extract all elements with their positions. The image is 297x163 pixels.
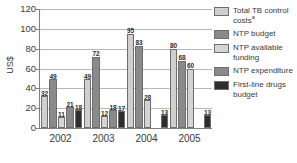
bar-value-label: 13 xyxy=(204,109,211,116)
bar-group: 3249112118 xyxy=(40,9,83,128)
bar-value-label: 60 xyxy=(187,62,194,69)
legend-swatch xyxy=(214,44,229,53)
bar-value-label: 83 xyxy=(135,39,142,46)
legend-item: Total TB control costsa xyxy=(214,6,296,25)
bar: 13 xyxy=(204,115,212,128)
plot-area: 324911211849721218179583281380686013 xyxy=(39,9,212,129)
bar: 60 xyxy=(187,69,195,129)
bar-value-label: 21 xyxy=(66,101,73,108)
bar-value-label: 13 xyxy=(161,109,168,116)
bar-group: 4972121817 xyxy=(83,9,126,128)
y-axis-tick-labels: 020406080100120 xyxy=(8,0,36,135)
y-axis-tick-label: 20 xyxy=(8,103,36,113)
bar: 18 xyxy=(75,110,83,128)
x-axis-tick-label: 2002 xyxy=(49,133,71,145)
bar-value-label: 18 xyxy=(109,104,116,111)
bars-layer: 324911211849721218179583281380686013 xyxy=(40,9,212,128)
bar: 83 xyxy=(135,46,143,128)
bar-value-label: 80 xyxy=(170,42,177,49)
legend-item: NTP budget xyxy=(214,29,296,39)
chart-legend: Total TB control costsaNTP budgetNTP ava… xyxy=(214,6,296,103)
legend-item: NTP available funding xyxy=(214,43,296,62)
legend-label: NTP expenditure xyxy=(233,66,293,76)
bar-value-label: 18 xyxy=(75,104,82,111)
bar-value-label: 95 xyxy=(127,27,134,34)
y-axis-tick xyxy=(36,128,40,129)
bar: 21 xyxy=(66,107,74,128)
x-axis-tick-labels: 2002200320042005 xyxy=(39,133,211,151)
bar: 11 xyxy=(58,117,66,128)
bar: 80 xyxy=(170,49,178,128)
bar: 49 xyxy=(84,79,92,128)
bar-group: 80686013 xyxy=(169,9,212,128)
bar: 28 xyxy=(144,100,152,128)
bar-value-label: 32 xyxy=(41,90,48,97)
legend-label: Total TB control costsa xyxy=(233,6,296,25)
legend-swatch xyxy=(214,30,229,39)
bar-value-label: 11 xyxy=(58,111,65,118)
legend-item: First-line drugs budget xyxy=(214,80,296,99)
bar-value-label: 28 xyxy=(144,94,151,101)
legend-label: NTP available funding xyxy=(233,43,296,62)
legend-swatch xyxy=(214,67,229,76)
bar: 12 xyxy=(101,116,109,128)
y-axis-tick-label: 80 xyxy=(8,44,36,54)
legend-label: First-line drugs budget xyxy=(233,80,296,99)
legend-label-superscript: a xyxy=(252,14,255,20)
bar: 72 xyxy=(92,57,100,128)
legend-label: NTP budget xyxy=(233,29,276,39)
bar-chart: US$ 020406080100120 32491121184972121817… xyxy=(0,0,297,163)
bar: 17 xyxy=(118,111,126,128)
bar-value-label: 49 xyxy=(84,73,91,80)
bar-value-label: 12 xyxy=(101,110,108,117)
legend-swatch xyxy=(214,81,229,90)
x-axis-tick-label: 2004 xyxy=(135,133,157,145)
legend-item: NTP expenditure xyxy=(214,66,296,76)
bar: 13 xyxy=(161,115,169,128)
x-axis-tick-label: 2005 xyxy=(178,133,200,145)
bar: 68 xyxy=(178,61,186,128)
y-axis-tick-label: 100 xyxy=(8,24,36,34)
bar-value-label: 17 xyxy=(118,105,125,112)
bar-value-label: 68 xyxy=(178,54,185,61)
bar: 32 xyxy=(41,96,49,128)
legend-swatch xyxy=(214,7,229,16)
y-axis-tick-label: 120 xyxy=(8,4,36,14)
bar: 95 xyxy=(127,34,135,128)
bar-value-label: 72 xyxy=(92,50,99,57)
x-axis-tick-label: 2003 xyxy=(92,133,114,145)
bar-group: 95832813 xyxy=(126,9,169,128)
bar-value-label: 49 xyxy=(49,73,56,80)
y-axis-tick-label: 0 xyxy=(8,123,36,133)
y-axis-tick-label: 40 xyxy=(8,84,36,94)
bar: 18 xyxy=(109,110,117,128)
y-axis-tick-label: 60 xyxy=(8,64,36,74)
bar: 49 xyxy=(49,79,57,128)
